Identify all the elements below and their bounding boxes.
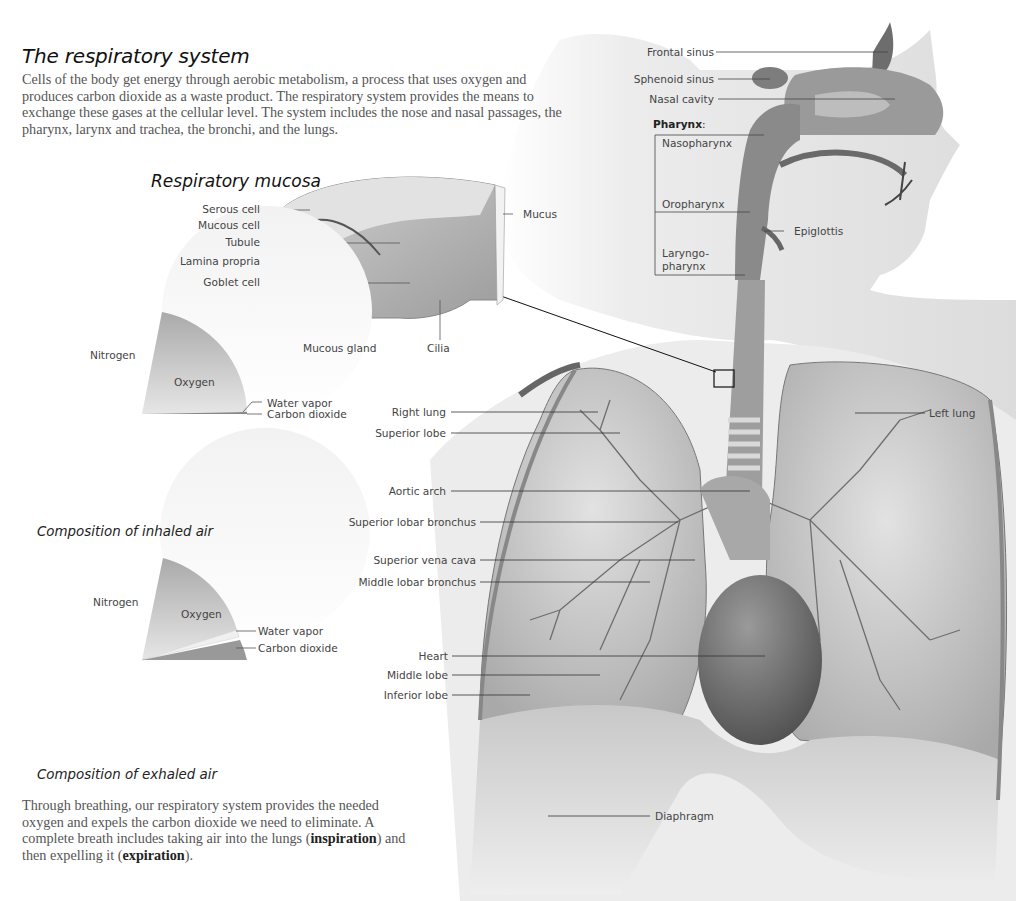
label-laryngopharynx-2: pharynx	[662, 260, 706, 273]
label-serous-cell: Serous cell	[202, 203, 260, 216]
label-superior-lobe: Superior lobe	[375, 427, 446, 440]
exhaled-air-pie	[142, 428, 370, 660]
intro-paragraph: Cells of the body get energy through aer…	[22, 71, 562, 137]
label-inferior-lobe: Inferior lobe	[384, 689, 448, 702]
page-title: The respiratory system	[22, 44, 250, 68]
inhaled-label-oxygen: Oxygen	[174, 376, 215, 389]
label-mucous-cell: Mucous cell	[198, 219, 260, 232]
label-lamina-propria: Lamina propria	[180, 255, 260, 268]
label-left-lung: Left lung	[929, 407, 975, 420]
label-superior-vena-cava: Superior vena cava	[373, 554, 476, 567]
label-nasopharynx: Nasopharynx	[662, 137, 732, 150]
exhaled-label-water-vapor: Water vapor	[258, 625, 323, 638]
inhaled-label-nitrogen: Nitrogen	[90, 349, 136, 362]
label-aortic-arch: Aortic arch	[389, 485, 446, 498]
label-cilia: Cilia	[427, 342, 450, 355]
label-superior-lobar-bronchus: Superior lobar bronchus	[349, 516, 476, 529]
label-sphenoid-sinus: Sphenoid sinus	[634, 73, 714, 86]
outro-paragraph: Through breathing, our respiratory syste…	[22, 797, 422, 863]
label-mucus: Mucus	[523, 208, 557, 221]
term-inspiration: inspiration	[310, 830, 376, 846]
label-right-lung: Right lung	[392, 406, 446, 419]
label-nasal-cavity: Nasal cavity	[649, 93, 714, 106]
inhaled-label-carbon-dioxide: Carbon dioxide	[267, 408, 347, 421]
label-middle-lobe: Middle lobe	[387, 669, 448, 682]
exhaled-label-carbon-dioxide: Carbon dioxide	[258, 642, 338, 655]
heart-shape	[698, 575, 822, 745]
label-oropharynx: Oropharynx	[662, 198, 724, 211]
exhaled-caption: Composition of exhaled air	[37, 767, 217, 782]
label-middle-lobar-bronchus: Middle lobar bronchus	[358, 576, 476, 589]
label-mucous-gland: Mucous gland	[303, 342, 376, 355]
label-goblet-cell: Goblet cell	[203, 276, 260, 289]
exhaled-label-oxygen: Oxygen	[181, 608, 222, 621]
label-laryngopharynx-1: Laryngo-	[662, 247, 709, 260]
label-pharynx: Pharynx:	[653, 118, 706, 131]
label-epiglottis: Epiglottis	[794, 225, 843, 238]
label-heart: Heart	[419, 650, 449, 663]
mucosa-title: Respiratory mucosa	[151, 171, 321, 191]
label-tubule: Tubule	[226, 236, 260, 249]
inhaled-caption: Composition of inhaled air	[37, 524, 213, 539]
exhaled-label-nitrogen: Nitrogen	[93, 596, 139, 609]
label-frontal-sinus: Frontal sinus	[647, 46, 714, 59]
term-expiration: expiration	[122, 847, 184, 863]
label-diaphragm: Diaphragm	[655, 810, 714, 823]
